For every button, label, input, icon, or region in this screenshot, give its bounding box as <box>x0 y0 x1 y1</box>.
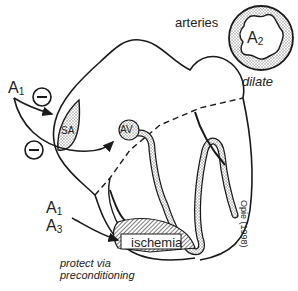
protect-label-line2: preconditioning <box>60 270 135 281</box>
protect-label-line1: protect via <box>60 258 111 269</box>
ischemia-label: ischemia <box>131 236 182 249</box>
a1-label-top: A1 <box>8 80 24 97</box>
a1-label-bottom: A1 <box>46 200 62 217</box>
citation-label: Opie (1998) <box>239 200 248 248</box>
a3-label: A3 <box>46 218 62 235</box>
dilate-label: dilate <box>242 75 273 88</box>
arrow-a1a3-to-ischemia <box>72 218 118 240</box>
av-node-label: AV <box>120 125 133 135</box>
heart-outline-atria <box>55 40 244 122</box>
papillary-line <box>110 190 127 222</box>
heart-diagram: A1 SA AV arteries A2 dilate A1 A3 ischem… <box>0 0 298 291</box>
sa-node-label: SA <box>61 126 74 136</box>
a2-label: A2 <box>247 30 263 47</box>
arteries-label: arteries <box>175 16 218 29</box>
